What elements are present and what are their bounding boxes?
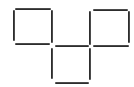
bottom-square-top-stick (55, 45, 89, 47)
top-left-square-bottom-stick (15, 43, 50, 45)
top-left-square-right-stick (51, 10, 53, 43)
top-right-square-top-stick (93, 9, 128, 11)
matchstick-diagram (0, 0, 134, 87)
top-right-square-left-stick (89, 11, 91, 45)
bottom-square-right-stick (89, 48, 91, 80)
bottom-square-bottom-stick (55, 82, 89, 84)
top-right-square-right-stick (128, 11, 130, 43)
top-left-square-left-stick (13, 10, 15, 41)
bottom-square-left-stick (51, 48, 53, 79)
top-left-square-top-stick (15, 8, 51, 10)
top-right-square-bottom-stick (93, 45, 129, 47)
